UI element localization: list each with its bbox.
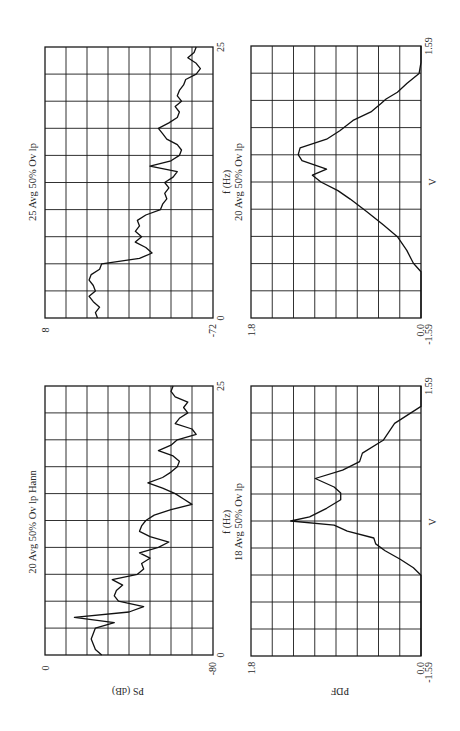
xtick-end-pdf-18avg: 1.59 [423, 377, 434, 395]
ytick-bottom-ps-25avg: -72 [207, 324, 218, 337]
xtick-start-pdf-18avg: -1.59 [423, 662, 434, 683]
pdf-20avg-panel [251, 46, 421, 318]
ps-25avg-panel [45, 47, 213, 318]
xtick-end-ps-20avg-hann: 25 [215, 381, 226, 391]
ylabel-pdf: PDF [330, 686, 349, 697]
xtick-start-ps-25avg: 0 [215, 316, 226, 321]
xtick-start-pdf-20avg: -1.59 [423, 324, 434, 345]
panel-title-ps-20avg-hann: 20 Avg 50% Ov lp Hann [27, 470, 38, 574]
ytick-top-ps-25avg: 8 [40, 328, 51, 333]
xtick-end-pdf-20avg: 1.59 [423, 37, 434, 55]
ytick-top-pdf-20avg: 1.8 [246, 324, 257, 337]
panel-title-ps-25avg: 25 Avg 50% Ov lp [27, 143, 38, 221]
ps-20avg-hann-panel [45, 386, 213, 655]
xlabel-pdf-20avg: V [427, 178, 438, 186]
xlabel-ps-25avg: f (Hz) [221, 170, 233, 194]
xlabel-ps-20avg-hann: f (Hz) [221, 510, 233, 534]
ytick-bottom-ps-20avg-hann: -80 [207, 662, 218, 675]
xtick-start-ps-20avg-hann: 0 [215, 653, 226, 658]
figure: 25 Avg 50% Ov lp 20 Avg 50% Ov lp Hann 2… [0, 0, 460, 731]
ytick-top-pdf-18avg: 1.8 [246, 662, 257, 675]
ylabel-ps: PS (dB) [112, 685, 144, 697]
pdf-18avg-panel [251, 386, 421, 656]
panel-title-pdf-20avg: 20 Avg 50% Ov lp [233, 143, 244, 221]
panel-title-pdf-18avg: 18 Avg 50% Ov lp [233, 483, 244, 561]
xtick-end-ps-25avg: 25 [215, 42, 226, 52]
xlabel-pdf-18avg: V [427, 518, 438, 526]
ytick-top-ps-20avg-hann: 0 [40, 666, 51, 671]
